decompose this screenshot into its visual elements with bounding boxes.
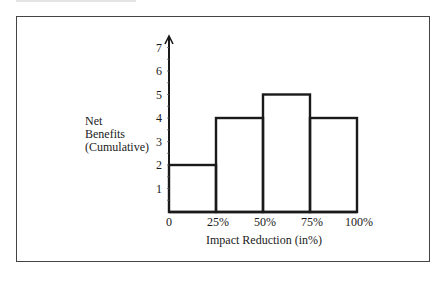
- bar-2: [216, 118, 263, 212]
- y-axis-label-line-3: (Cumulative): [85, 141, 149, 154]
- x-tick-label-4: 100%: [345, 215, 373, 229]
- y-tick-label-1: 1: [156, 182, 162, 196]
- y-tick-label-4: 4: [156, 111, 162, 125]
- y-tick-label-2: 2: [156, 158, 162, 172]
- bar-1: [169, 165, 216, 212]
- bar-3: [263, 95, 310, 213]
- x-tick-label-2: 50%: [254, 215, 276, 229]
- x-tick-label-3: 75%: [301, 215, 323, 229]
- y-tick-label-3: 3: [156, 135, 162, 149]
- y-axis-label: Net Benefits (Cumulative): [85, 115, 149, 154]
- x-tick-label-1: 25%: [207, 215, 229, 229]
- y-tick-label-7: 7: [156, 41, 162, 55]
- x-tick-label-0: 0: [166, 215, 172, 229]
- y-tick-label-5: 5: [156, 88, 162, 102]
- bar-4: [310, 118, 357, 212]
- y-tick-label-6: 6: [156, 64, 162, 78]
- x-axis-label: Impact Reduction (in%): [0, 233, 448, 248]
